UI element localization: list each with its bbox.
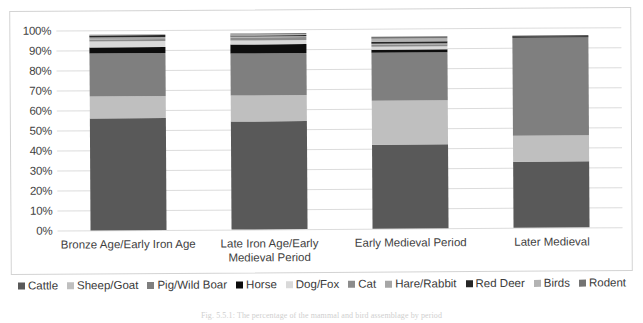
chart-frame: 100%90%80%70%60%50%40%30%20%10%0% Bronze… <box>9 7 633 275</box>
bar-segment-horse <box>230 44 306 53</box>
y-axis-tick-label: 70% <box>29 85 51 97</box>
y-axis-tick-label: 50% <box>29 125 51 137</box>
bar-segment-pig-wild-boar <box>513 37 590 135</box>
legend-item-dog-fox[interactable]: Dog/Fox <box>286 278 340 290</box>
legend-item-birds[interactable]: Birds <box>534 277 570 289</box>
figure-container: 100%90%80%70%60%50%40%30%20%10%0% Bronze… <box>0 0 643 323</box>
x-axis-label: Late Iron Age/Early Medieval Period <box>199 236 340 265</box>
bar-segment-cat <box>372 44 448 47</box>
bar-segment-birds <box>371 38 447 42</box>
bar-stack <box>371 28 448 228</box>
bar-segment-pig-wild-boar <box>230 53 306 95</box>
legend-swatch-icon <box>67 282 74 289</box>
chart-legend: CattleSheep/GoatPig/Wild BoarHorseDog/Fo… <box>12 276 632 291</box>
x-axis-labels: Bronze Age/Early Iron AgeLate Iron Age/E… <box>58 230 623 273</box>
legend-label: Hare/Rabbit <box>395 277 456 289</box>
x-axis-label: Bronze Age/Early Iron Age <box>58 237 199 252</box>
bar-segment-sheep-goat <box>513 135 589 161</box>
y-axis-tick-label: 0% <box>36 225 52 237</box>
bar-segment-cat <box>89 39 165 42</box>
legend-item-pig-wild-boar[interactable]: Pig/Wild Boar <box>147 278 227 290</box>
bar-segment-horse <box>89 47 165 53</box>
legend-item-cattle[interactable]: Cattle <box>18 279 58 291</box>
legend-label: Sheep/Goat <box>77 279 138 291</box>
legend-label: Horse <box>246 278 277 290</box>
legend-swatch-icon <box>236 281 243 288</box>
y-axis-tick-label: 10% <box>30 205 52 217</box>
x-axis-label: Early Medieval Period <box>340 235 481 250</box>
legend-label: Dog/Fox <box>296 278 340 290</box>
bar-segment-dog-fox <box>89 41 165 48</box>
bar-segment-pig-wild-boar <box>372 52 448 100</box>
bar-segment-cattle <box>231 121 308 229</box>
legend-label: Rodent <box>589 276 626 288</box>
y-axis-tick-label: 40% <box>30 145 52 157</box>
y-axis-tick-label: 20% <box>30 185 52 197</box>
bar-segment-dog-fox <box>372 47 448 50</box>
bar-stack <box>513 27 590 227</box>
y-axis-tick-label: 100% <box>23 25 52 37</box>
bar-segment-sheep-goat <box>231 95 307 121</box>
bar-segment-cattle <box>372 144 449 228</box>
legend-item-sheep-goat[interactable]: Sheep/Goat <box>67 279 138 291</box>
legend-swatch-icon <box>385 280 392 287</box>
legend-label: Red Deer <box>475 277 524 289</box>
legend-item-horse[interactable]: Horse <box>236 278 277 290</box>
legend-swatch-icon <box>534 279 541 286</box>
bar-segment-dog-fox <box>230 40 306 44</box>
y-axis-tick-label: 30% <box>30 165 52 177</box>
bar-segment-cattle <box>514 161 590 227</box>
legend-item-cat[interactable]: Cat <box>348 278 376 290</box>
legend-swatch-icon <box>147 281 154 288</box>
bar-segment-pig-wild-boar <box>89 53 165 96</box>
legend-item-hare-rabbit[interactable]: Hare/Rabbit <box>385 277 456 289</box>
legend-swatch-icon <box>286 281 293 288</box>
bar-segment-cat <box>230 37 306 40</box>
legend-item-red-deer[interactable]: Red Deer <box>465 277 524 289</box>
legend-label: Cat <box>358 278 376 290</box>
y-axis-tick-label: 90% <box>29 45 51 57</box>
legend-label: Cattle <box>28 279 58 291</box>
y-axis-tick-label: 60% <box>29 105 51 117</box>
legend-swatch-icon <box>465 280 472 287</box>
bar-segment-horse <box>372 49 448 52</box>
bar-segment-sheep-goat <box>372 100 448 144</box>
legend-swatch-icon <box>579 279 586 286</box>
bar-segment-sheep-goat <box>89 96 165 118</box>
legend-swatch-icon <box>18 282 25 289</box>
figure-caption: Fig. 5.5.1: The percentage of the mammal… <box>0 311 643 320</box>
legend-label: Pig/Wild Boar <box>157 278 227 290</box>
legend-item-rodent[interactable]: Rodent <box>579 276 626 288</box>
bar-segment-cattle <box>89 118 166 230</box>
x-axis-label: Later Medieval <box>481 234 622 249</box>
bar-stack <box>230 29 307 229</box>
plot-area: 100%90%80%70%60%50%40%30%20%10%0% <box>56 27 622 230</box>
bar-stack <box>89 30 166 230</box>
legend-label: Birds <box>544 277 570 289</box>
y-axis-tick-label: 80% <box>29 65 51 77</box>
legend-swatch-icon <box>348 280 355 287</box>
